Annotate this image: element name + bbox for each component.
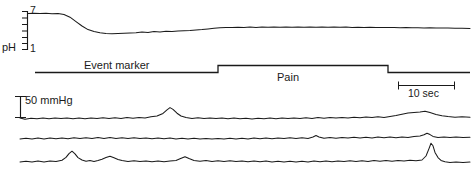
ph-axis-group — [22, 11, 28, 50]
pressure-trace-2 — [20, 133, 470, 139]
pressure-scale-label: 50 mmHg — [25, 95, 73, 106]
pressure-trace-3 — [20, 143, 470, 162]
ph-axis-bottom-tick-label: 1 — [30, 43, 36, 54]
ph-axis-label: pH — [2, 42, 16, 53]
event-marker-label: Event marker — [84, 60, 149, 71]
recording-canvas — [0, 0, 473, 180]
time-scale-label: 10 sec — [408, 88, 439, 99]
ph-axis-top-tick-label: 7 — [30, 5, 36, 16]
physiology-recording-figure: pH 7 1 Event marker Pain 50 mmHg 10 sec — [0, 0, 473, 180]
ph-trace — [28, 13, 470, 34]
pressure-trace-1 — [20, 108, 470, 120]
pain-label: Pain — [277, 72, 299, 83]
